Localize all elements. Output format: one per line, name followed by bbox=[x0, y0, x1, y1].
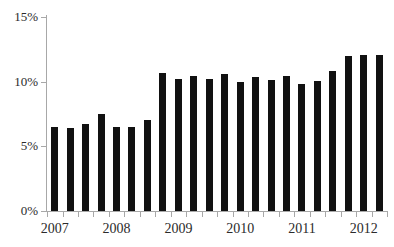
plot-area bbox=[47, 17, 387, 211]
bar-slot bbox=[109, 17, 124, 211]
x-axis-tick bbox=[294, 211, 295, 217]
bar bbox=[98, 114, 105, 211]
bar bbox=[221, 74, 228, 211]
bar bbox=[206, 79, 213, 211]
bar bbox=[51, 127, 58, 211]
bar-chart: 0%5%10%15% 200720082009201020112012 bbox=[0, 0, 394, 247]
bar bbox=[329, 71, 336, 211]
bar-slot bbox=[279, 17, 294, 211]
bar-slot bbox=[171, 17, 186, 211]
bar-slot bbox=[62, 17, 77, 211]
x-axis-tick bbox=[217, 211, 218, 217]
bar-slot bbox=[310, 17, 325, 211]
x-axis-tick bbox=[155, 211, 156, 217]
x-axis-tick bbox=[93, 211, 94, 217]
bar bbox=[128, 127, 135, 211]
bar-slot bbox=[140, 17, 155, 211]
y-axis-tick-label: 0% bbox=[0, 204, 38, 217]
bar-slot bbox=[124, 17, 139, 211]
bar bbox=[82, 124, 89, 211]
bar-slot bbox=[372, 17, 387, 211]
bar bbox=[252, 77, 259, 212]
bar-slot bbox=[325, 17, 340, 211]
bar bbox=[283, 76, 290, 211]
bar bbox=[268, 80, 275, 211]
bar-slot bbox=[93, 17, 108, 211]
x-axis-tick-label: 2008 bbox=[103, 222, 131, 236]
x-axis-tick bbox=[356, 211, 357, 217]
x-axis-tick-label: 2011 bbox=[288, 222, 315, 236]
y-axis-tick-label: 15% bbox=[0, 10, 38, 23]
bar bbox=[345, 56, 352, 211]
x-axis-tick bbox=[140, 211, 141, 217]
bar-slot bbox=[232, 17, 247, 211]
bar bbox=[237, 82, 244, 211]
x-axis-tick bbox=[248, 211, 249, 217]
x-axis-tick bbox=[372, 211, 373, 217]
x-axis-tick bbox=[279, 211, 280, 217]
bar-slot bbox=[263, 17, 278, 211]
x-axis-tick bbox=[47, 211, 48, 217]
bar bbox=[314, 81, 321, 211]
x-axis-tick-label: 2009 bbox=[164, 222, 192, 236]
x-axis-tick bbox=[202, 211, 203, 217]
bar bbox=[67, 128, 74, 211]
bar bbox=[175, 79, 182, 211]
bar bbox=[360, 55, 367, 211]
x-axis-tick bbox=[233, 211, 234, 217]
bar-slot bbox=[202, 17, 217, 211]
bar-slot bbox=[341, 17, 356, 211]
bar bbox=[298, 84, 305, 211]
x-axis-tick bbox=[325, 211, 326, 217]
x-axis-tick-label: 2007 bbox=[41, 222, 69, 236]
x-axis-tick bbox=[310, 211, 311, 217]
x-axis-tick bbox=[124, 211, 125, 217]
x-axis-tick bbox=[387, 211, 388, 217]
bar bbox=[376, 55, 383, 211]
x-axis-tick bbox=[109, 211, 110, 217]
x-axis-tick bbox=[341, 211, 342, 217]
bar-slot bbox=[78, 17, 93, 211]
bar bbox=[190, 76, 197, 211]
x-axis-tick bbox=[263, 211, 264, 217]
bar-slot bbox=[186, 17, 201, 211]
bar bbox=[113, 127, 120, 211]
bar-slot bbox=[356, 17, 371, 211]
bar-slot bbox=[47, 17, 62, 211]
x-axis-tick bbox=[78, 211, 79, 217]
bar-series bbox=[47, 17, 387, 211]
y-axis-tick-label: 5% bbox=[0, 139, 38, 152]
bar-slot bbox=[155, 17, 170, 211]
bar-slot bbox=[248, 17, 263, 211]
bar-slot bbox=[294, 17, 309, 211]
bar-slot bbox=[217, 17, 232, 211]
x-axis-tick bbox=[171, 211, 172, 217]
x-axis-tick-label: 2012 bbox=[350, 222, 378, 236]
x-axis-tick-label: 2010 bbox=[226, 222, 254, 236]
x-axis-tick bbox=[63, 211, 64, 217]
x-axis-tick bbox=[186, 211, 187, 217]
bar bbox=[159, 73, 166, 211]
bar bbox=[144, 120, 151, 211]
y-axis-tick-label: 10% bbox=[0, 75, 38, 88]
